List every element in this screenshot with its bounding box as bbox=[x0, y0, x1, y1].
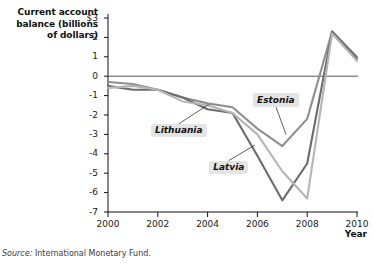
source-text: International Monetary Fund. bbox=[35, 249, 151, 258]
source-note: Source: International Monetary Fund. bbox=[2, 249, 151, 258]
leader-line-estonia bbox=[276, 107, 286, 134]
series-label-latvia: Latvia bbox=[209, 161, 248, 175]
source-prefix: Source: bbox=[2, 249, 32, 258]
series-lines bbox=[108, 32, 357, 201]
leader-line-lithuania bbox=[179, 104, 209, 123]
chart-figure: Current account balance (billions of dol… bbox=[0, 0, 373, 266]
series-label-lithuania: Lithuania bbox=[151, 124, 207, 138]
series-label-estonia: Estonia bbox=[253, 93, 299, 107]
leader-line-latvia bbox=[229, 145, 255, 161]
